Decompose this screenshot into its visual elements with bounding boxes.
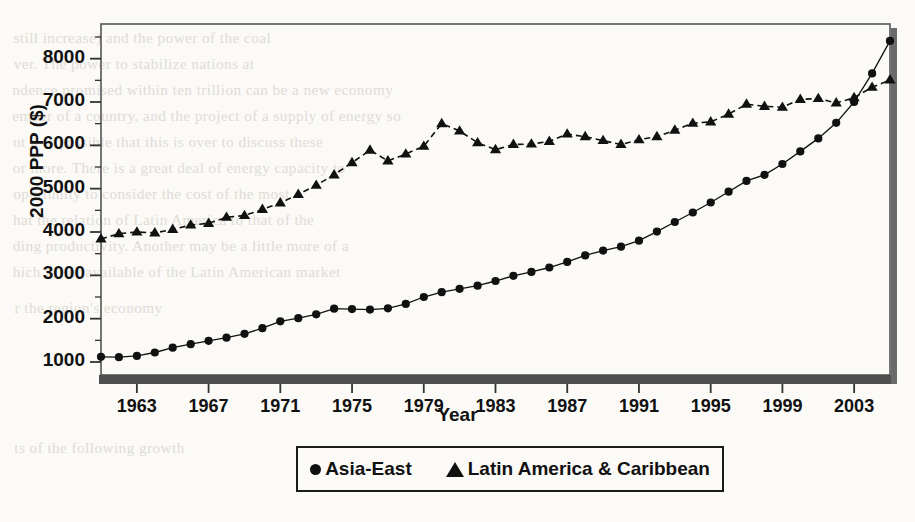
data-point-triangle [167, 224, 178, 233]
data-point-circle [796, 147, 804, 155]
data-point-circle [366, 306, 374, 314]
data-point-circle [258, 324, 266, 332]
data-point-circle [205, 337, 213, 345]
series-line-1 [101, 41, 890, 357]
data-point-circle [635, 237, 643, 245]
data-point-circle [760, 171, 768, 179]
legend-label-latin-america-caribbean: Latin America & Caribbean [468, 458, 710, 480]
data-point-circle [671, 218, 679, 226]
x-axis-tick-label: 1975 [317, 396, 387, 417]
y-axis-tick-label: 4000 [15, 219, 85, 241]
data-point-circle [886, 37, 894, 45]
data-point-circle [115, 353, 123, 361]
data-point-triangle [562, 128, 573, 137]
data-point-circle [402, 300, 410, 308]
x-axis-tick-label: 2003 [819, 396, 889, 417]
chart-figure: 2000 PPP ($) Year 1000200030004000500060… [0, 0, 915, 522]
data-point-circle [169, 344, 177, 352]
data-point-circle [742, 177, 750, 185]
data-point-circle [599, 247, 607, 255]
circle-marker-icon [310, 464, 321, 475]
x-axis-tick-label: 1999 [747, 396, 817, 417]
data-point-circle [814, 134, 822, 142]
data-point-circle [420, 293, 428, 301]
data-point-circle [133, 352, 141, 360]
data-point-circle [832, 119, 840, 127]
y-axis-tick-label: 1000 [15, 349, 85, 371]
x-axis-tick-label: 1979 [389, 396, 459, 417]
x-axis-tick-label: 1991 [604, 396, 674, 417]
data-point-circle [222, 334, 230, 342]
y-axis-tick-label: 6000 [15, 132, 85, 154]
x-axis-tick-label: 1983 [461, 396, 531, 417]
data-point-circle [527, 268, 535, 276]
data-point-triangle [293, 189, 304, 198]
data-point-circle [725, 188, 733, 196]
data-point-triangle [777, 101, 788, 110]
data-point-circle [348, 305, 356, 313]
data-point-triangle [185, 219, 196, 228]
x-axis-tick-label: 1995 [676, 396, 746, 417]
x-axis-tick-label: 1967 [174, 396, 244, 417]
data-point-triangle [723, 108, 734, 117]
data-point-circle [187, 340, 195, 348]
data-point-circle [509, 272, 517, 280]
data-point-circle [456, 285, 464, 293]
data-point-triangle [526, 138, 537, 147]
data-point-triangle [131, 226, 142, 235]
triangle-marker-icon [446, 462, 464, 477]
data-point-circle [545, 263, 553, 271]
data-point-circle [491, 277, 499, 285]
data-point-triangle [221, 211, 232, 220]
legend-item-latin-america-caribbean: Latin America & Caribbean [446, 458, 710, 480]
y-axis-tick-label: 3000 [15, 262, 85, 284]
data-point-circle [384, 304, 392, 312]
data-point-triangle [346, 157, 357, 166]
data-point-triangle [813, 93, 824, 102]
data-point-triangle [329, 169, 340, 178]
data-point-circle [868, 69, 876, 77]
y-axis-tick-label: 7000 [15, 89, 85, 111]
legend-item-asia-east: Asia-East [310, 458, 412, 480]
data-point-triangle [311, 179, 322, 188]
data-point-circle [563, 258, 571, 266]
data-point-triangle [508, 139, 519, 148]
data-point-triangle [364, 144, 375, 153]
y-axis-tick-label: 2000 [15, 306, 85, 328]
data-point-circle [330, 305, 338, 313]
data-point-circle [438, 288, 446, 296]
data-point-circle [151, 348, 159, 356]
data-point-circle [689, 208, 697, 216]
data-point-circle [617, 243, 625, 251]
x-axis-tick-label: 1971 [245, 396, 315, 417]
data-point-circle [276, 317, 284, 325]
chart-plot-area [0, 0, 915, 430]
data-point-circle [240, 330, 248, 338]
data-point-triangle [633, 134, 644, 143]
data-point-circle [474, 282, 482, 290]
x-axis-tick-label: 1987 [532, 396, 602, 417]
data-point-triangle [472, 137, 483, 146]
x-axis-tick-label: 1963 [102, 396, 172, 417]
chart-legend: Asia-East Latin America & Caribbean [296, 446, 724, 492]
data-point-circle [294, 314, 302, 322]
data-point-triangle [257, 204, 268, 213]
data-point-triangle [275, 197, 286, 206]
data-point-circle [312, 310, 320, 318]
data-point-triangle [149, 227, 160, 236]
y-axis-tick-label: 5000 [15, 176, 85, 198]
data-point-circle [707, 198, 715, 206]
data-point-triangle [795, 94, 806, 103]
data-point-triangle [687, 117, 698, 126]
plot-frame [101, 24, 890, 375]
data-point-circle [581, 251, 589, 259]
data-point-circle [97, 353, 105, 361]
y-axis-tick-label: 8000 [15, 46, 85, 68]
x-axis-bar [99, 375, 896, 384]
series-line-2 [101, 80, 890, 239]
data-point-circle [653, 228, 661, 236]
data-point-triangle [741, 98, 752, 107]
data-point-triangle [651, 131, 662, 140]
legend-label-asia-east: Asia-East [325, 458, 412, 480]
data-point-triangle [436, 118, 447, 127]
